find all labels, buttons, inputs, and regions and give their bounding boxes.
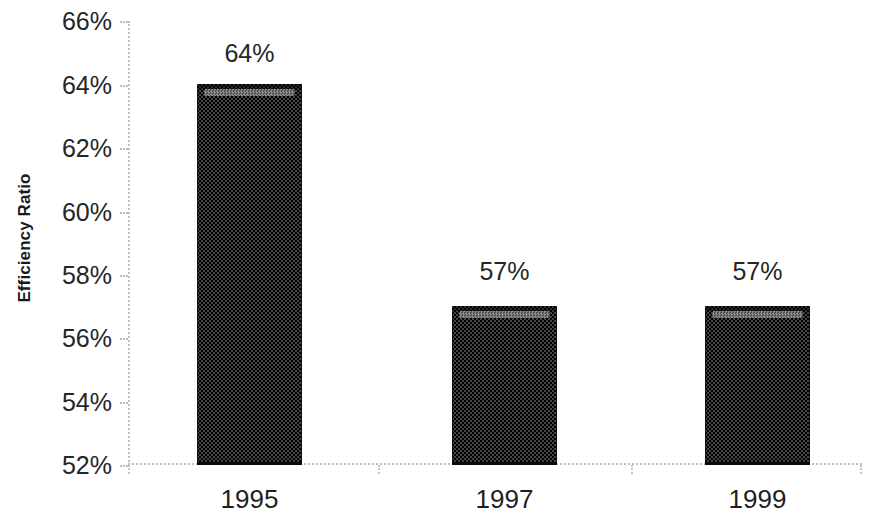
y-tick-label: 56%: [22, 326, 112, 351]
y-axis-line: [128, 21, 130, 465]
x-axis-tick: [631, 465, 633, 474]
x-axis-tick: [128, 465, 130, 474]
y-tick-label: 58%: [22, 263, 112, 288]
bar-1997: [452, 306, 557, 465]
y-tick-label: 60%: [22, 200, 112, 225]
y-axis-tick: [120, 148, 128, 150]
y-axis-tick: [120, 212, 128, 214]
x-axis-label-1995: 1995: [197, 486, 302, 512]
y-axis-tick: [120, 465, 128, 467]
y-tick-label: 62%: [22, 136, 112, 161]
y-tick-label: 52%: [22, 453, 112, 478]
data-label-1995: 64%: [197, 41, 302, 66]
y-axis-tick: [120, 402, 128, 404]
bar-foot: [197, 462, 302, 465]
bar-foot: [705, 462, 810, 465]
plot-area: [128, 21, 862, 465]
y-axis-tick-labels: 66% 64% 62% 60% 58% 56% 54% 52%: [20, 0, 112, 529]
bar-foot: [452, 462, 557, 465]
bar-highlight: [204, 89, 295, 96]
y-tick-label: 54%: [22, 390, 112, 415]
x-axis-label-1997: 1997: [452, 486, 557, 512]
bar-1999: [705, 306, 810, 465]
y-axis-tick: [120, 85, 128, 87]
bar-highlight: [712, 311, 803, 318]
y-axis-tick: [120, 275, 128, 277]
bar-highlight: [459, 311, 550, 318]
y-tick-label: 64%: [22, 73, 112, 98]
y-axis-tick: [120, 338, 128, 340]
x-axis-tick: [860, 465, 862, 474]
x-axis-tick: [378, 465, 380, 474]
y-tick-label: 66%: [22, 9, 112, 34]
y-axis-tick: [120, 21, 128, 23]
bar-1995: [197, 84, 302, 465]
data-label-1997: 57%: [452, 259, 557, 284]
x-axis-label-1999: 1999: [705, 486, 810, 512]
bar-chart: Efficiency Ratio 66% 64% 62% 60% 58% 56%…: [0, 0, 875, 529]
data-label-1999: 57%: [705, 259, 810, 284]
